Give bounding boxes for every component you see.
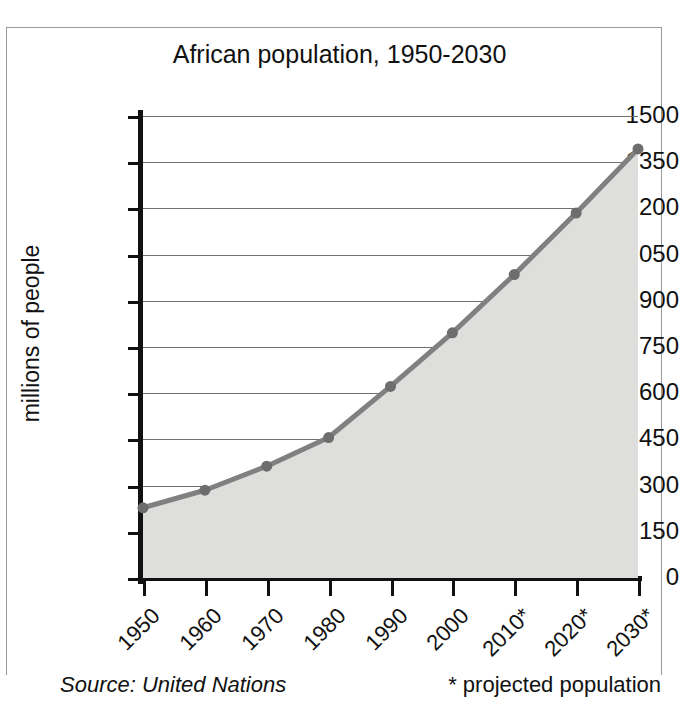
source-note: Source: United Nations (60, 672, 286, 698)
data-point-marker (447, 327, 458, 338)
x-axis-tick (452, 581, 455, 596)
x-axis-tick (143, 581, 146, 596)
x-axis-tick (576, 581, 579, 596)
y-axis-tick (128, 578, 142, 581)
data-point-marker (385, 381, 396, 392)
chart-figure: African population, 1950-2030 millions o… (0, 0, 679, 710)
y-axis-tick (128, 393, 142, 396)
y-axis-tick (128, 116, 142, 119)
y-axis-title: millions of people (18, 184, 45, 484)
plot-area (143, 116, 638, 578)
y-axis-tick (128, 208, 142, 211)
projected-population-note: * projected population (448, 672, 661, 698)
x-axis-tick (391, 581, 394, 596)
x-axis-tick (514, 581, 517, 596)
y-axis-title-container: millions of people (0, 0, 128, 710)
data-point-marker (571, 208, 582, 219)
data-point-marker (261, 461, 272, 472)
data-point-marker (138, 502, 149, 513)
y-axis-tick (128, 255, 142, 258)
y-axis-tick (128, 439, 142, 442)
y-axis-tick (128, 532, 142, 535)
data-point-marker (199, 485, 210, 496)
data-point-marker (633, 143, 644, 154)
y-axis-tick (128, 347, 142, 350)
x-axis-tick (638, 581, 641, 596)
x-axis-tick (329, 581, 332, 596)
x-axis-tick (205, 581, 208, 596)
y-axis-tick (128, 162, 142, 165)
x-axis-tick (267, 581, 270, 596)
data-point-marker (509, 269, 520, 280)
data-point-marker (323, 432, 334, 443)
y-axis-tick (128, 486, 142, 489)
series-fill-shape (143, 149, 638, 578)
y-axis-tick (128, 301, 142, 304)
population-area-series (143, 116, 638, 578)
